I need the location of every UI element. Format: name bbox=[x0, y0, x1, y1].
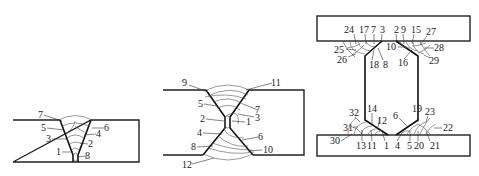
label-21: 21 bbox=[430, 140, 440, 151]
label-5: 5 bbox=[198, 98, 203, 109]
figure-i-beam: 24 17 7 3 2 9 15 27 25 26 18 8 10 16 28 … bbox=[317, 16, 470, 156]
label-18: 18 bbox=[369, 59, 379, 70]
figure-double-v: 9 5 2 4 8 12 11 7 1 3 6 10 bbox=[163, 77, 304, 170]
label-27: 27 bbox=[426, 26, 436, 37]
label-20: 20 bbox=[414, 140, 424, 151]
label-8: 8 bbox=[383, 59, 388, 70]
figure-single-v: 7 5 3 1 6 4 2 8 bbox=[13, 109, 139, 162]
label-12: 12 bbox=[377, 115, 387, 126]
groove-wall-left bbox=[60, 120, 73, 162]
label-13: 13 bbox=[356, 140, 366, 151]
label-19: 19 bbox=[412, 103, 422, 114]
label-2: 2 bbox=[88, 138, 93, 149]
leaders bbox=[44, 115, 104, 157]
label-8: 8 bbox=[191, 141, 196, 152]
label-24: 24 bbox=[344, 24, 354, 35]
label-2: 2 bbox=[394, 24, 399, 35]
label-15: 15 bbox=[411, 24, 421, 35]
label-1: 1 bbox=[246, 116, 251, 127]
label-3: 3 bbox=[380, 24, 385, 35]
label-1: 1 bbox=[384, 140, 389, 151]
label-23: 23 bbox=[425, 106, 435, 117]
web-right bbox=[396, 41, 418, 135]
label-5: 5 bbox=[407, 140, 412, 151]
label-11: 11 bbox=[271, 77, 281, 88]
label-9: 9 bbox=[182, 77, 187, 88]
label-12: 12 bbox=[182, 159, 192, 170]
label-8: 8 bbox=[85, 150, 90, 161]
label-16: 16 bbox=[398, 57, 408, 68]
weld-beads-bottom bbox=[348, 118, 436, 134]
label-14: 14 bbox=[367, 103, 377, 114]
label-4: 4 bbox=[395, 140, 400, 151]
label-28: 28 bbox=[434, 42, 444, 53]
label-7: 7 bbox=[371, 24, 376, 35]
groove-wall-left bbox=[203, 90, 225, 155]
label-10: 10 bbox=[263, 144, 273, 155]
label-22: 22 bbox=[443, 122, 453, 133]
label-11: 11 bbox=[367, 140, 377, 151]
label-6: 6 bbox=[393, 110, 398, 121]
label-29: 29 bbox=[429, 55, 439, 66]
label-17: 17 bbox=[359, 24, 369, 35]
weld-sequence-diagram: 7 5 3 1 6 4 2 8 bbox=[0, 0, 479, 176]
label-4: 4 bbox=[96, 128, 101, 139]
label-26: 26 bbox=[337, 54, 347, 65]
label-4: 4 bbox=[197, 127, 202, 138]
label-9: 9 bbox=[401, 24, 406, 35]
label-2: 2 bbox=[200, 113, 205, 124]
label-31: 31 bbox=[343, 122, 353, 133]
label-5: 5 bbox=[41, 122, 46, 133]
plate-outline bbox=[13, 120, 139, 162]
label-1: 1 bbox=[56, 146, 61, 157]
label-7: 7 bbox=[38, 109, 43, 120]
label-3: 3 bbox=[46, 133, 51, 144]
label-3: 3 bbox=[255, 112, 260, 123]
label-30: 30 bbox=[330, 135, 340, 146]
label-10: 10 bbox=[386, 41, 396, 52]
label-32: 32 bbox=[349, 107, 359, 118]
label-6: 6 bbox=[258, 131, 263, 142]
label-6: 6 bbox=[104, 122, 109, 133]
